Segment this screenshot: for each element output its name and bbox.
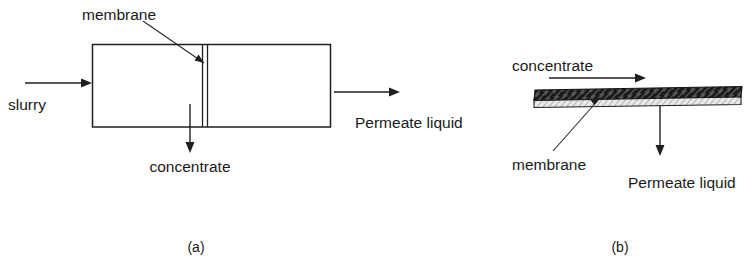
membrane-label-b: membrane: [512, 156, 586, 173]
panel-b-group: concentrate membrane Permeate liquid (b): [512, 57, 742, 255]
concentrate-arrow-a: [186, 104, 195, 153]
figure-canvas: membrane slurry concentrate Permeate liq…: [0, 0, 754, 269]
membrane-leader-line-a: [143, 21, 204, 63]
slurry-arrow: [25, 79, 92, 88]
concentrate-label-a: concentrate: [150, 158, 231, 175]
membrane-filtration-figure: membrane slurry concentrate Permeate liq…: [0, 0, 754, 269]
panel-caption-b: (b): [611, 239, 628, 255]
panel-caption-a: (a): [187, 239, 204, 255]
permeate-arrow-a: [334, 88, 400, 97]
permeate-arrow-b: [656, 105, 665, 156]
concentrate-label-b: concentrate: [512, 57, 593, 74]
concentrate-arrow-b: [549, 74, 646, 83]
panel-a-group: membrane slurry concentrate Permeate liq…: [8, 6, 463, 255]
membrane-slab: [534, 87, 742, 108]
membrane-divider-a: [203, 45, 208, 128]
slurry-label: slurry: [8, 96, 46, 113]
permeate-label-b: Permeate liquid: [628, 174, 736, 191]
membrane-label-a: membrane: [82, 6, 156, 23]
module-body-rectangle: [93, 45, 331, 128]
permeate-label-a: Permeate liquid: [355, 114, 463, 131]
